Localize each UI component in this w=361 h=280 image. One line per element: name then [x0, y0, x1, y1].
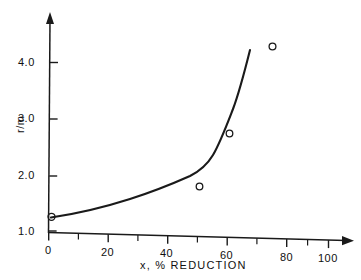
x-axis-minor-ticks	[78, 233, 307, 245]
y-tick-label-2: 2.0	[18, 169, 35, 181]
x-tick-label-0: 0	[45, 244, 52, 256]
y-axis-label: r/m	[14, 116, 26, 133]
data-point	[196, 183, 203, 190]
scatter-plot-canvas	[0, 0, 361, 280]
x-axis-arrow-icon	[342, 236, 354, 245]
y-tick-label-4: 4.0	[18, 56, 35, 68]
x-tick-label-100: 100	[318, 252, 338, 264]
x-axis-label: x, % REDUCTION	[140, 259, 247, 271]
x-tick-label-80: 80	[280, 251, 293, 263]
x-tick-label-40: 40	[160, 247, 173, 259]
y-axis-arrow-icon	[46, 12, 54, 24]
x-axis-major-ticks	[49, 233, 329, 249]
data-point-markers	[48, 43, 276, 220]
data-point	[269, 43, 276, 50]
y-axis-line	[49, 20, 51, 233]
chart-figure: 4.0 3.0 2.0 1.0 0 20 40 60 80 100 r/m x,…	[0, 0, 361, 280]
fitted-curve-path	[51, 50, 250, 218]
data-point	[226, 130, 233, 137]
x-tick-label-20: 20	[101, 246, 114, 258]
y-tick-label-1: 1.0	[18, 225, 35, 237]
